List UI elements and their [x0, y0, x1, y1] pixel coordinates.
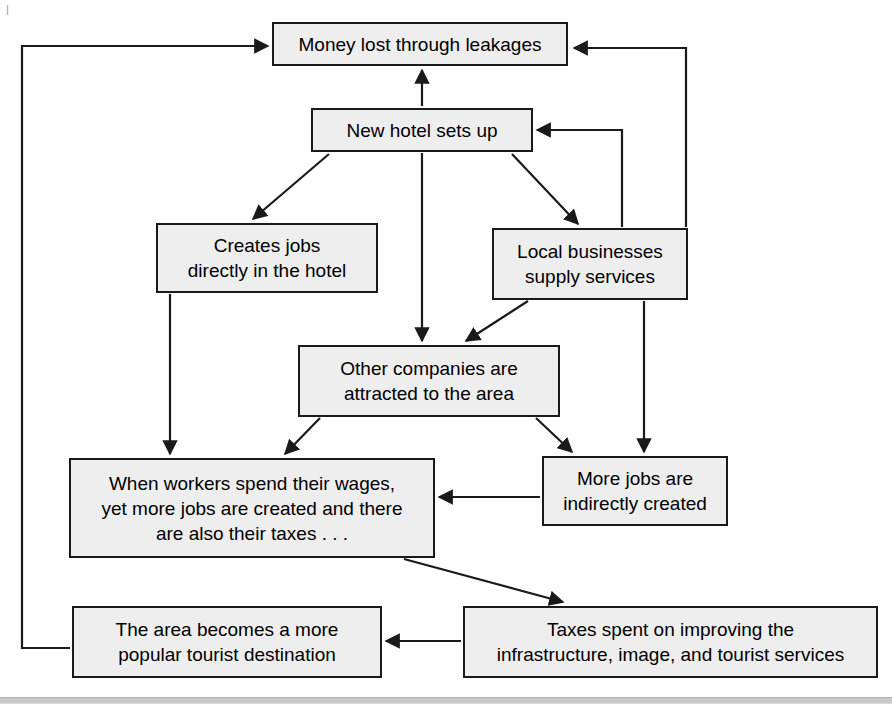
edge-local-businesses-to-new-hotel: [537, 130, 622, 227]
node-label: More jobs are indirectly created: [563, 466, 707, 516]
node-label: Other companies are attracted to the are…: [340, 356, 517, 406]
page-bottom-rule: [0, 697, 892, 704]
node-label: Creates jobs directly in the hotel: [188, 233, 346, 283]
edge-hotel-to-creates-jobs: [253, 154, 329, 219]
edge-other-companies-to-when-workers: [285, 418, 320, 454]
edge-hotel-to-local-businesses: [512, 154, 578, 224]
node-label: New hotel sets up: [346, 118, 497, 143]
node-label: Taxes spent on improving the infrastruct…: [497, 617, 844, 667]
node-other-companies-attracted-to-the-area[interactable]: Other companies are attracted to the are…: [298, 345, 560, 417]
node-more-jobs-are-indirectly-created[interactable]: More jobs are indirectly created: [542, 456, 728, 526]
page-corner-mark: |: [6, 4, 9, 15]
node-label: When workers spend their wages, yet more…: [101, 471, 402, 546]
flowchart-canvas: |: [0, 0, 892, 706]
edge-local-businesses-to-other-companies: [466, 301, 528, 341]
node-creates-jobs-directly-in-the-hotel[interactable]: Creates jobs directly in the hotel: [156, 223, 378, 293]
node-the-area-becomes-a-more-popular-tourist-destination[interactable]: The area becomes a more popular tourist …: [72, 606, 382, 678]
edge-when-workers-to-taxes: [404, 559, 563, 602]
node-local-businesses-supply-services[interactable]: Local businesses supply services: [492, 228, 688, 300]
node-new-hotel-sets-up[interactable]: New hotel sets up: [311, 108, 533, 152]
node-money-lost-through-leakages[interactable]: Money lost through leakages: [272, 22, 568, 66]
node-taxes-spent-on-improving-the-infrastructure[interactable]: Taxes spent on improving the infrastruct…: [463, 606, 878, 678]
node-when-workers-spend-their-wages[interactable]: When workers spend their wages, yet more…: [69, 458, 435, 558]
node-label: The area becomes a more popular tourist …: [116, 617, 339, 667]
node-label: Money lost through leakages: [299, 32, 542, 57]
node-label: Local businesses supply services: [517, 239, 663, 289]
edge-local-businesses-to-money-lost: [574, 48, 686, 227]
edge-other-companies-to-more-jobs: [536, 418, 572, 452]
